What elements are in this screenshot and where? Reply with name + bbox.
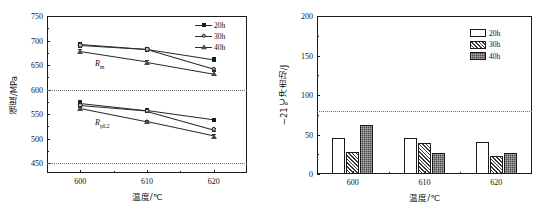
x-tick-label: 600 [347,178,359,187]
y-tick-label: 500 [19,134,43,143]
legend-item-40h: 40h [470,51,500,61]
y-minor-tick [47,151,49,152]
x-tick-mark [214,170,215,173]
y-tick-label: 100 [289,91,313,100]
y-tick-mark [47,65,50,66]
legend-item-30h: 30h [470,40,500,50]
y-minor-tick [47,77,49,78]
reference-line [47,163,247,164]
data-point-30h-620 [211,127,216,132]
legend-item-20h: 20h [195,20,225,30]
y-tick-mark [47,16,50,17]
y-tick-mark [317,56,320,57]
x-minor-tick [180,171,181,173]
x-minor-tick [460,172,461,174]
bar-40h-620 [504,153,517,174]
bar-40h-600 [360,125,373,174]
data-point-30h-600 [78,43,83,48]
legend-marker-40h [201,44,207,49]
reference-line [317,111,532,112]
y-minor-tick [317,36,319,37]
y-tick-mark [47,139,50,140]
legend-label-40h: 40h [489,52,500,61]
y-minor-tick [317,75,319,76]
data-point-40h-610 [144,119,150,124]
bar-20h-620 [476,142,489,174]
y-tick-label: 0 [289,170,313,179]
x-tick-mark [147,170,148,173]
x-axis-label-right: 温度/℃ [317,191,532,203]
legend-label-30h: 30h [489,40,500,49]
y-tick-mark [47,41,50,42]
legend-marker-20h [202,23,206,27]
x-tick-label: 610 [419,178,431,187]
legend-right: 20h30h40h [470,28,500,63]
y-tick-mark [317,16,320,17]
legend-label-20h: 20h [489,29,500,38]
annotation-Rp0.2: Rp0.2 [95,118,110,129]
x-tick-label: 600 [74,177,86,186]
legend-marker-30h [201,33,206,38]
y-minor-tick [47,102,49,103]
bar-20h-600 [332,138,345,174]
x-axis-label-left: 温度/℃ [47,190,247,202]
x-tick-mark [353,171,354,174]
reference-line [47,90,247,91]
legend-sample [195,43,212,52]
legend-label-30h: 30h [214,32,225,41]
data-point-20h-620 [212,118,216,122]
y-tick-mark [317,135,320,136]
strength-line-chart: 强度/MPa 温度/℃ 20h30h40h 450500550600650700… [0,0,272,221]
annotation-subscript: p0.2 [100,123,110,129]
y-tick-label: 650 [19,61,43,70]
y-tick-mark [317,174,320,175]
data-point-40h-620 [211,134,217,139]
x-tick-mark [80,170,81,173]
legend-sample [195,32,212,41]
y-tick-mark [47,114,50,115]
y-tick-label: 550 [19,110,43,119]
y-minor-tick [47,28,49,29]
legend-swatch-20h [470,29,486,37]
legend-item-30h: 30h [195,31,225,41]
impact-energy-bar-chart: −21℃冲击功/J 温度/℃ 20h30h40h 050100150200600… [272,0,544,221]
data-point-40h-600 [77,49,83,54]
annotation-Rm: Rm [95,59,104,70]
y-minor-tick [47,53,49,54]
y-tick-label: 600 [19,85,43,94]
y-tick-label: 700 [19,36,43,45]
y-minor-tick [47,126,49,127]
x-tick-mark [496,171,497,174]
x-tick-mark [425,171,426,174]
legend-swatch-40h [470,52,486,60]
legend-label-40h: 40h [214,43,225,52]
data-point-20h-620 [212,57,216,61]
y-tick-label: 200 [289,12,313,21]
figure-two-panel: 强度/MPa 温度/℃ 20h30h40h 450500550600650700… [0,0,544,221]
legend-item-40h: 40h [195,42,225,52]
y-tick-label: 750 [19,12,43,21]
y-minor-tick [317,115,319,116]
x-minor-tick [389,172,390,174]
x-minor-tick [114,171,115,173]
bar-40h-610 [432,153,445,174]
legend-swatch-30h [470,41,486,49]
legend-label-20h: 20h [214,21,225,30]
legend-item-20h: 20h [470,28,500,38]
data-point-30h-610 [145,108,150,113]
x-tick-label: 610 [141,177,153,186]
y-tick-label: 450 [19,159,43,168]
x-tick-label: 620 [490,178,502,187]
y-tick-label: 50 [289,130,313,139]
legend-sample [195,21,212,30]
y-minor-tick [317,154,319,155]
bar-30h-610 [418,143,431,174]
data-point-30h-610 [145,47,150,52]
y-tick-mark [317,95,320,96]
data-point-40h-600 [77,106,83,111]
x-tick-label: 620 [208,177,220,186]
data-point-40h-610 [144,60,150,65]
data-point-40h-620 [211,71,217,76]
bar-20h-610 [404,138,417,174]
legend-left: 20h30h40h [195,20,225,53]
